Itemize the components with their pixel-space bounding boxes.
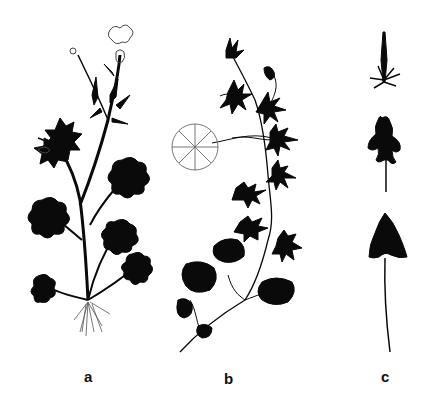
- panel-label-a: a: [84, 369, 92, 384]
- plant-a: [28, 25, 153, 336]
- panel-label-b: b: [224, 371, 233, 386]
- plant-b: [172, 38, 302, 352]
- leaf-series-c: [368, 32, 407, 352]
- illustration-drawing: [0, 0, 426, 407]
- botanical-illustration: a b c: [0, 0, 426, 407]
- panel-label-c: c: [381, 369, 389, 384]
